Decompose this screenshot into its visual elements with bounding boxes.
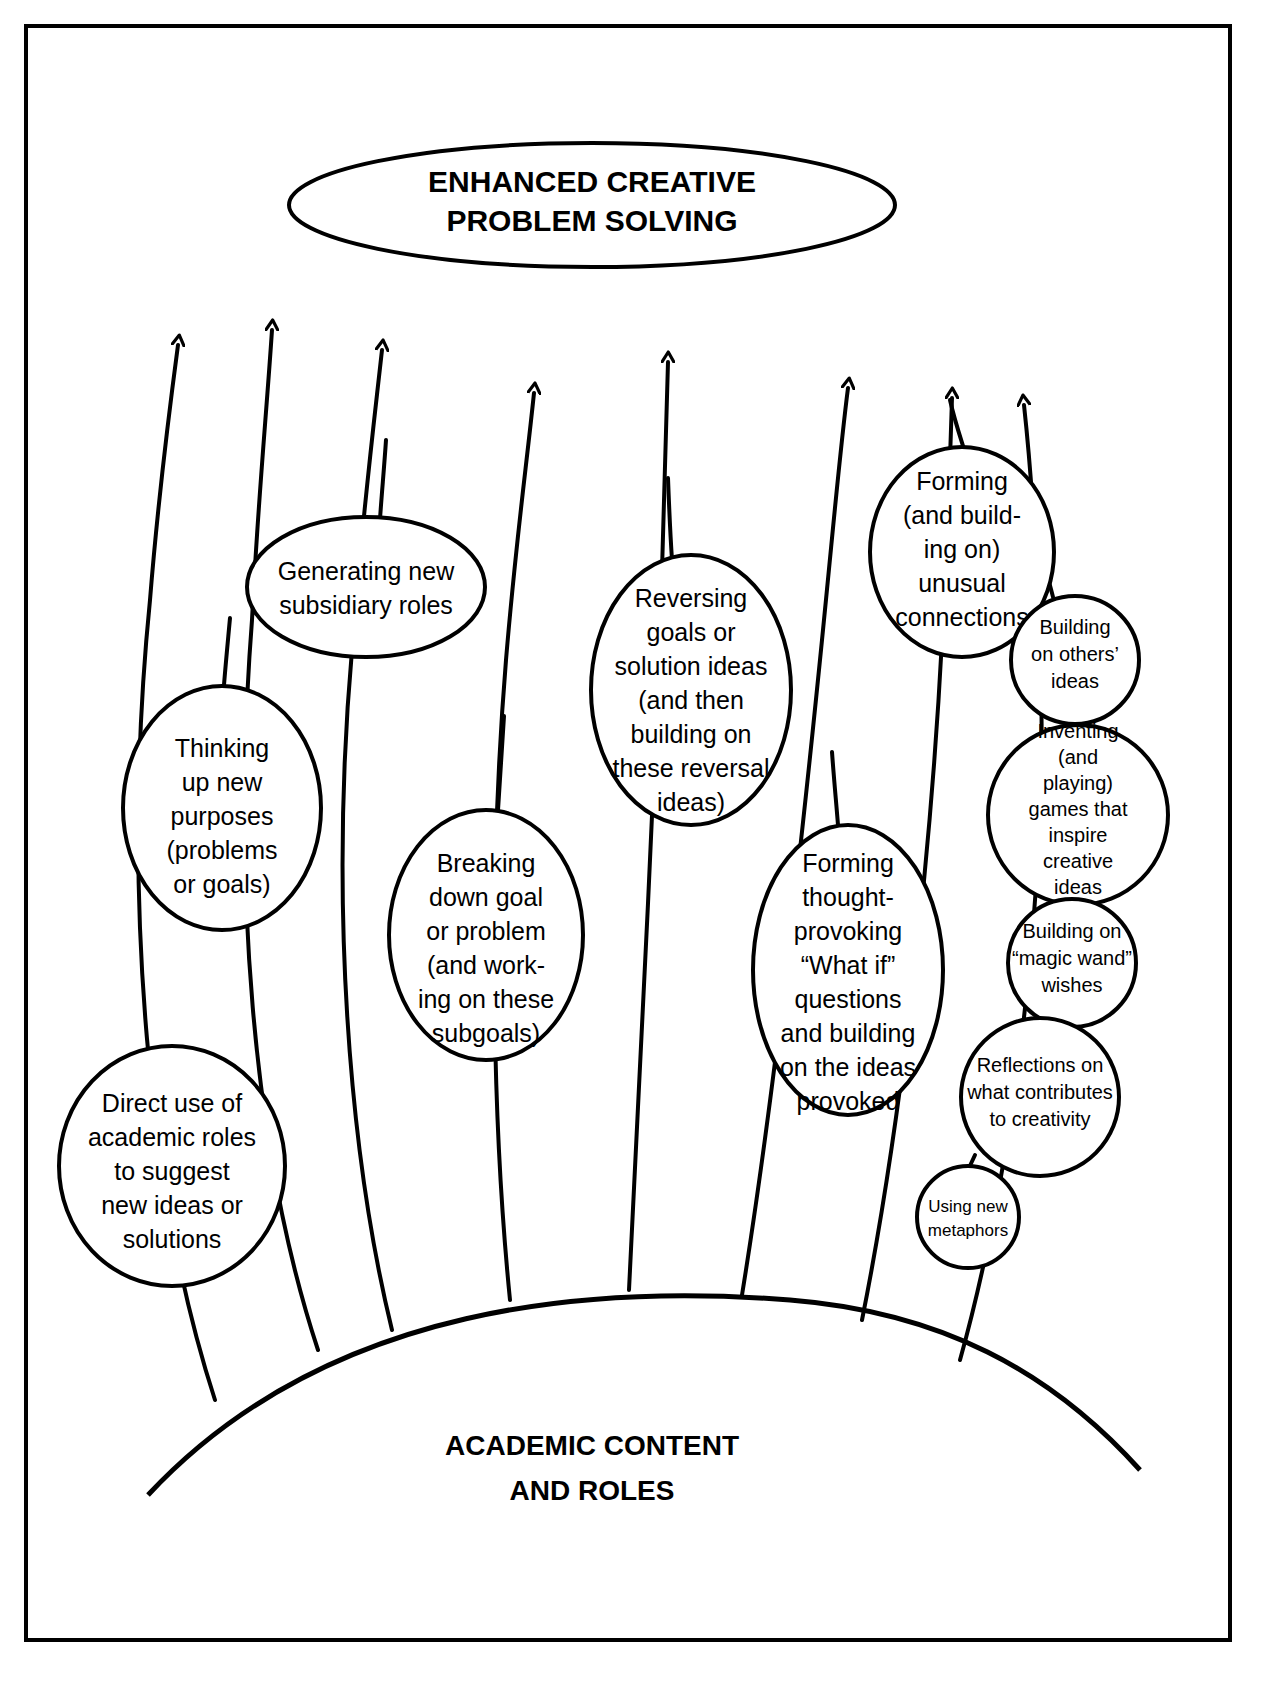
- reversing-line-3: solution ideas: [615, 652, 768, 680]
- direct-use-line-3: to suggest: [114, 1157, 229, 1185]
- inventing-line-4: games that: [1029, 798, 1128, 820]
- others-ideas-line-1: Building: [1039, 616, 1110, 638]
- node-forming-thought-provoking-what-if-questions[interactable]: Forming thought- provoking “What if” que…: [753, 825, 943, 1115]
- breaking-line-5: ing on these: [418, 985, 554, 1013]
- node-inventing-games-that-inspire-creative-ideas[interactable]: Inventing (and playing) games that inspi…: [988, 720, 1168, 905]
- inventing-line-3: playing): [1043, 772, 1113, 794]
- generating-line-2: subsidiary roles: [279, 591, 453, 619]
- academic-content-line-1: ACADEMIC CONTENT: [445, 1430, 739, 1461]
- node-enhanced-creative-problem-solving[interactable]: ENHANCED CREATIVE PROBLEM SOLVING: [289, 143, 895, 267]
- magic-wand-line-1: Building on: [1023, 920, 1122, 942]
- thinking-line-1: Thinking: [175, 734, 270, 762]
- direct-use-line-5: solutions: [123, 1225, 222, 1253]
- node-reflections-on-what-contributes-to-creativity[interactable]: Reflections on what contributes to creat…: [961, 1018, 1119, 1176]
- what-if-line-7: on the ideas: [780, 1053, 916, 1081]
- stem-thinking-up-new-purposes: [224, 618, 230, 685]
- magic-wand-line-3: wishes: [1040, 974, 1102, 996]
- what-if-line-2: thought-: [802, 883, 894, 911]
- unusual-line-3: ing on): [924, 535, 1000, 563]
- unusual-line-4: unusual: [918, 569, 1006, 597]
- generating-line-1: Generating new: [278, 557, 455, 585]
- reversing-line-2: goals or: [647, 618, 736, 646]
- thinking-line-4: (problems: [166, 836, 277, 864]
- others-ideas-line-3: ideas: [1051, 670, 1099, 692]
- inventing-line-1: Inventing: [1037, 720, 1118, 742]
- reversing-line-6: these reversal: [612, 754, 769, 782]
- base-node-label: ACADEMIC CONTENT AND ROLES: [445, 1430, 739, 1506]
- others-ideas-line-2: on others’: [1031, 643, 1119, 665]
- breaking-line-6: subgoals): [432, 1019, 540, 1047]
- reversing-line-4: (and then: [638, 686, 744, 714]
- node-breaking-down-goal-or-problem[interactable]: Breaking down goal or problem (and work-…: [389, 810, 583, 1060]
- branch-curve-5: [629, 362, 668, 1290]
- breaking-line-4: (and work-: [427, 951, 545, 979]
- thinking-line-5: or goals): [173, 870, 270, 898]
- reflections-line-3: to creativity: [989, 1108, 1090, 1130]
- stem-forming-what-if: [832, 752, 838, 825]
- thinking-line-3: purposes: [171, 802, 274, 830]
- direct-use-line-1: Direct use of: [102, 1089, 242, 1117]
- breaking-line-2: down goal: [429, 883, 543, 911]
- direct-use-line-4: new ideas or: [101, 1191, 243, 1219]
- reflections-line-1: Reflections on: [977, 1054, 1104, 1076]
- inventing-line-6: creative: [1043, 850, 1113, 872]
- using-new-metaphors-circle: [917, 1166, 1019, 1268]
- metaphors-line-1: Using new: [928, 1197, 1008, 1216]
- thinking-line-2: up new: [182, 768, 264, 796]
- unusual-line-2: (and build-: [903, 501, 1021, 529]
- enhanced-creative-problem-solving-line-1: ENHANCED CREATIVE: [428, 165, 756, 198]
- inventing-line-2: (and: [1058, 746, 1098, 768]
- node-direct-use-of-academic-roles[interactable]: Direct use of academic roles to suggest …: [59, 1046, 285, 1286]
- node-building-on-others-ideas[interactable]: Building on others’ ideas: [1011, 596, 1139, 724]
- what-if-line-5: questions: [794, 985, 901, 1013]
- node-building-on-magic-wand-wishes[interactable]: Building on “magic wand” wishes: [1008, 899, 1136, 1027]
- node-thinking-up-new-purposes[interactable]: Thinking up new purposes (problems or go…: [123, 686, 321, 930]
- stem-reversing-goals: [668, 478, 672, 560]
- enhanced-creative-problem-solving-line-2: PROBLEM SOLVING: [446, 204, 737, 237]
- what-if-line-4: “What if”: [801, 951, 895, 979]
- unusual-line-1: Forming: [916, 467, 1008, 495]
- what-if-line-6: and building: [781, 1019, 916, 1047]
- unusual-line-5: connections: [895, 603, 1028, 631]
- node-reversing-goals-or-solution-ideas[interactable]: Reversing goals or solution ideas (and t…: [591, 555, 791, 825]
- reversing-line-5: building on: [631, 720, 752, 748]
- reversing-line-7: ideas): [657, 788, 725, 816]
- generating-new-subsidiary-roles-ellipse: [247, 517, 485, 657]
- branch-curve-3: [343, 350, 392, 1330]
- reflections-line-2: what contributes: [966, 1081, 1113, 1103]
- node-generating-new-subsidiary-roles[interactable]: Generating new subsidiary roles: [247, 517, 485, 657]
- reversing-line-1: Reversing: [635, 584, 748, 612]
- magic-wand-line-2: “magic wand”: [1012, 947, 1132, 969]
- metaphors-line-2: metaphors: [928, 1221, 1008, 1240]
- node-using-new-metaphors[interactable]: Using new metaphors: [917, 1166, 1019, 1268]
- breaking-line-1: Breaking: [437, 849, 536, 877]
- diagram-page: ENHANCED CREATIVE PROBLEM SOLVING Direct…: [0, 0, 1283, 1698]
- what-if-line-8: provoked: [797, 1087, 900, 1115]
- academic-content-line-2: AND ROLES: [510, 1475, 675, 1506]
- stem-generating-new-subsidiary-roles: [380, 440, 386, 519]
- direct-use-line-2: academic roles: [88, 1123, 256, 1151]
- concept-map-diagram: ENHANCED CREATIVE PROBLEM SOLVING Direct…: [0, 0, 1283, 1698]
- inventing-line-7: ideas: [1054, 876, 1102, 898]
- inventing-line-5: inspire: [1049, 824, 1108, 846]
- what-if-line-3: provoking: [794, 917, 902, 945]
- base-arc: [148, 1296, 1140, 1495]
- breaking-line-3: or problem: [426, 917, 546, 945]
- what-if-line-1: Forming: [802, 849, 894, 877]
